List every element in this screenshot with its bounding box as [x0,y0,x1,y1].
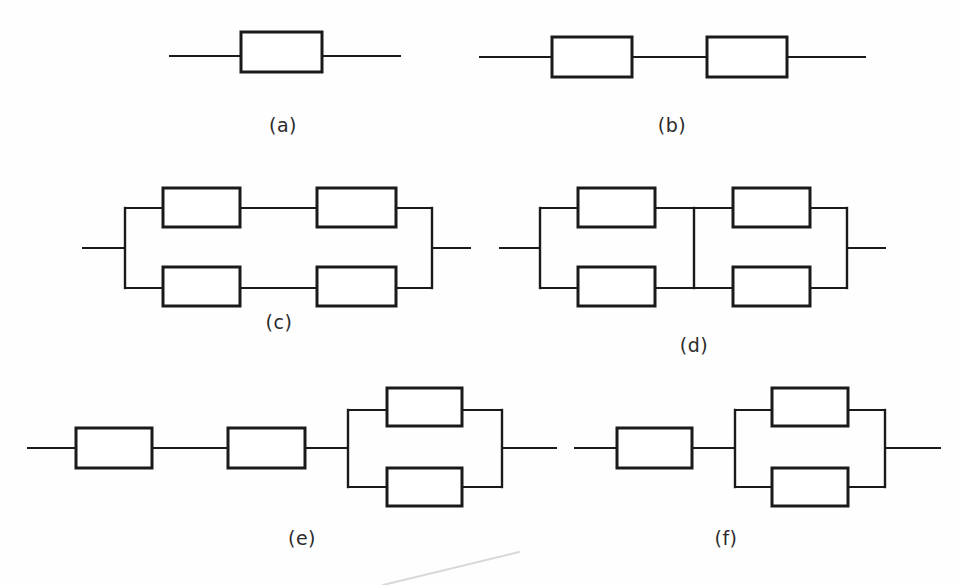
diagram-f [575,388,940,506]
block-e3[interactable] [387,388,462,426]
caption-b: (b) [658,114,686,136]
block-f2[interactable] [772,388,848,426]
reliability-block-diagram-figure [0,0,959,585]
block-f1[interactable] [617,428,692,468]
diagram-d [500,188,885,306]
block-c4[interactable] [317,267,396,306]
block-b1[interactable] [552,37,632,77]
diagram-b [480,37,865,77]
figure-sheet: (a)(b)(c)(d)(e)(f) [0,0,959,585]
block-b2[interactable] [707,37,787,77]
block-e2[interactable] [228,428,305,468]
block-c1[interactable] [163,188,240,227]
block-e1[interactable] [76,428,152,468]
caption-c: (c) [266,311,293,333]
diagram-c [83,188,470,306]
block-e4[interactable] [387,468,462,506]
block-a1[interactable] [241,32,322,72]
block-c2[interactable] [317,188,396,227]
block-d1[interactable] [578,188,655,227]
block-d2[interactable] [733,188,810,227]
caption-d: (d) [680,334,708,356]
caption-f: (f) [714,527,737,549]
block-d3[interactable] [578,267,655,306]
scan-streak [383,552,519,585]
block-f3[interactable] [772,468,848,506]
diagram-a [170,32,400,72]
caption-e: (e) [288,527,316,549]
block-c3[interactable] [163,267,240,306]
caption-a: (a) [269,114,297,136]
diagram-e [28,388,556,506]
block-d4[interactable] [733,267,810,306]
